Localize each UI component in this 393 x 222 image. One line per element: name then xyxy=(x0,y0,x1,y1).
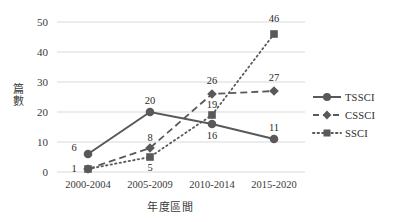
label-cssci-2000: 1 xyxy=(64,164,84,175)
y-tick-10: 10 xyxy=(20,137,48,148)
label-tssci-2015: 11 xyxy=(264,123,284,134)
y-axis-title: 篇數 xyxy=(10,84,26,109)
y-tick-50: 50 xyxy=(20,17,48,28)
legend-marker-diamond-icon xyxy=(312,108,342,122)
label-tssci-2000: 6 xyxy=(64,143,84,154)
legend-item-ssci[interactable]: SSCI xyxy=(312,124,392,142)
series-cssci xyxy=(83,86,279,174)
series-tssci xyxy=(84,108,279,159)
y-tick-40: 40 xyxy=(20,47,48,58)
legend-marker-circle-icon xyxy=(312,90,342,104)
label-cssci-2005: 8 xyxy=(140,133,160,144)
label-ssci-2010: 19 xyxy=(202,100,222,111)
legend-label-tssci: TSSCI xyxy=(342,92,375,103)
label-cssci-2015: 27 xyxy=(264,73,284,84)
label-tssci-2005: 20 xyxy=(140,96,160,107)
chart-legend: TSSCI CSSCI SSCI xyxy=(312,88,392,142)
legend-marker-square-icon xyxy=(312,126,342,140)
legend-label-cssci: CSSCI xyxy=(342,110,375,121)
label-ssci-2005: 5 xyxy=(140,163,160,174)
label-ssci-2015: 46 xyxy=(264,14,284,25)
legend-item-tssci[interactable]: TSSCI xyxy=(312,88,392,106)
line-chart: 50 40 30 20 10 0 篇數 2000-2004 2005-2009 … xyxy=(0,0,393,222)
label-tssci-2010: 16 xyxy=(202,131,222,142)
legend-label-ssci: SSCI xyxy=(342,128,368,139)
legend-item-cssci[interactable]: CSSCI xyxy=(312,106,392,124)
y-tick-0: 0 xyxy=(20,167,48,178)
label-cssci-2010: 26 xyxy=(202,76,222,87)
y-tick-20: 20 xyxy=(20,107,48,118)
x-tick-2015-2020: 2015-2020 xyxy=(234,180,314,191)
x-axis-title: 年度區間 xyxy=(0,198,340,214)
